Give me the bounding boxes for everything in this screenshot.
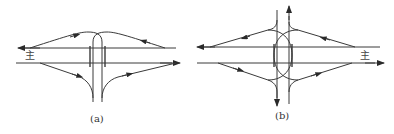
ramp-arrow-icon	[143, 41, 150, 43]
ramp-top-left-outer	[210, 20, 277, 47]
ramp-top-left	[30, 32, 102, 48]
interchange-figure: 主 (a) 主 (b)	[0, 0, 394, 134]
ramp-arrow-icon	[311, 74, 319, 77]
panel-b	[197, 6, 384, 106]
panel-caption-a: (a)	[90, 114, 104, 124]
interchange-diagram-svg	[0, 0, 394, 134]
ramp-top-right-outer	[289, 22, 355, 47]
ramp-bottom-right	[102, 63, 176, 98]
ramp-arrow-icon	[122, 74, 130, 76]
ramp-top-right	[93, 32, 165, 48]
ramp-bottom-right-outer	[289, 63, 352, 92]
ramp-arrow-icon	[72, 74, 80, 77]
panel-caption-b: (b)	[275, 111, 289, 121]
ramp-bottom-left-outer	[218, 63, 277, 92]
ramp-arrow-icon	[233, 68, 241, 71]
main-road-label-b: 主	[360, 51, 370, 61]
ramp-bottom-left	[40, 63, 93, 98]
main-road-label-a: 主	[25, 51, 35, 61]
panel-a	[16, 32, 180, 102]
